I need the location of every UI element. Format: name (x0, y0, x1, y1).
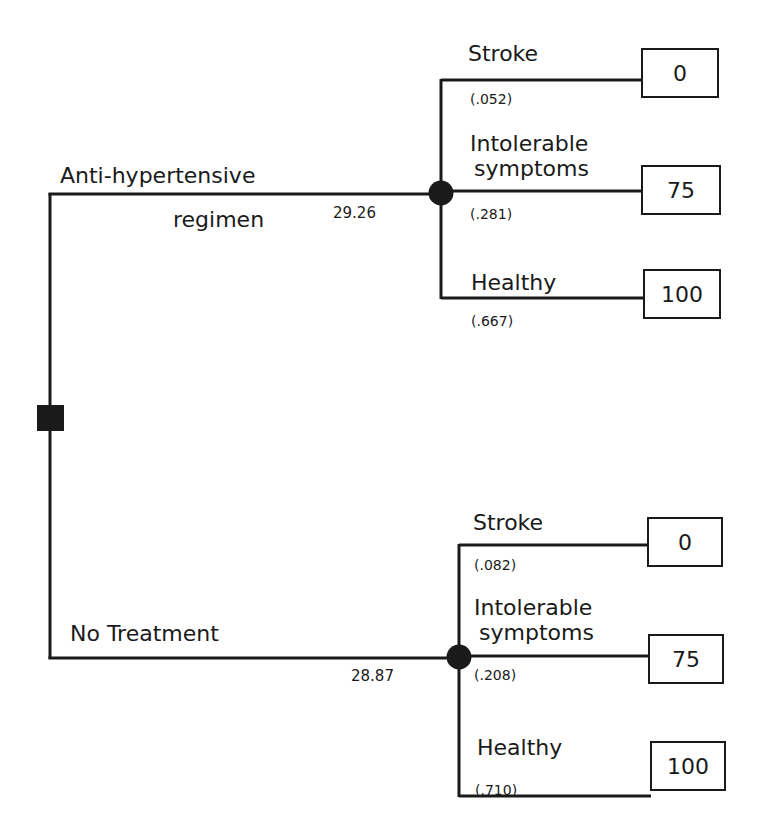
expected-value-treatment: 29.26 (333, 206, 376, 221)
outcome-label-intolerable-line2: symptoms (474, 158, 589, 180)
outcome-probability: (.082) (474, 558, 516, 572)
utility-box: 100 (643, 269, 721, 319)
utility-box: 75 (648, 634, 724, 684)
outcome-label-stroke: Stroke (473, 512, 543, 534)
outcome-label-intolerable-line1: Intolerable (470, 133, 588, 155)
branch-label-treatment-line1: Anti-hypertensive (60, 165, 255, 187)
chance-node-treatment (429, 181, 454, 206)
outcome-label-healthy: Healthy (471, 272, 556, 294)
outcome-probability: (.052) (470, 92, 512, 106)
expected-value-no-treatment: 28.87 (351, 669, 394, 684)
branch-label-treatment-line2: regimen (173, 209, 264, 231)
chance-node-no-treatment (447, 645, 472, 670)
outcome-label-intolerable-line2: symptoms (479, 622, 594, 644)
branch-label-no-treatment: No Treatment (70, 623, 219, 645)
outcome-probability: (.208) (474, 668, 516, 682)
utility-box: 100 (650, 741, 726, 791)
outcome-probability: (.667) (471, 314, 513, 328)
utility-box: 0 (641, 48, 719, 98)
utility-box: 75 (641, 165, 721, 215)
outcome-probability: (.281) (470, 207, 512, 221)
outcome-label-healthy: Healthy (477, 737, 562, 759)
outcome-probability: (.710) (475, 783, 517, 797)
decision-node-square (37, 405, 64, 431)
outcome-label-intolerable-line1: Intolerable (474, 597, 592, 619)
utility-box: 0 (647, 517, 723, 567)
outcome-label-stroke: Stroke (468, 43, 538, 65)
decision-tree-lines (0, 0, 762, 836)
